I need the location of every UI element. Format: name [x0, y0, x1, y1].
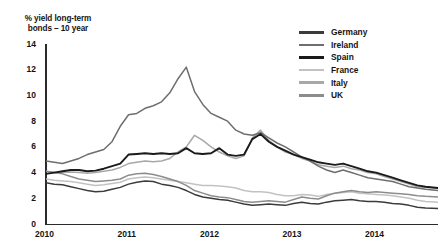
x-tick-label-0: 2010: [35, 229, 54, 239]
y-tick-label-0: 0: [14, 219, 36, 229]
legend-label: France: [331, 65, 358, 75]
legend-item-italy[interactable]: Italy: [299, 76, 367, 89]
legend: GermanyIrelandSpainFranceItalyUK: [299, 26, 367, 102]
legend-item-spain[interactable]: Spain: [299, 51, 367, 64]
line-ireland: [46, 67, 438, 190]
y-axis-title: % yield long-term bonds – 10 year: [12, 14, 104, 34]
legend-label: Germany: [331, 27, 367, 37]
y-tick-label-6: 12: [14, 64, 36, 74]
legend-swatch-germany-icon: [299, 31, 324, 34]
y-tick-label-1: 2: [14, 193, 36, 203]
x-tick-label-1: 2011: [118, 229, 136, 239]
legend-item-uk[interactable]: UK: [299, 89, 367, 102]
chart-root: % yield long-term bonds – 10 year 024681…: [0, 0, 447, 250]
legend-swatch-italy-icon: [299, 81, 324, 84]
legend-item-ireland[interactable]: Ireland: [299, 39, 367, 52]
y-tick-label-2: 4: [14, 167, 36, 177]
y-tick-label-5: 10: [14, 90, 36, 100]
legend-label: Italy: [331, 78, 348, 88]
legend-label: Spain: [331, 52, 354, 62]
plot-area: [46, 44, 438, 224]
y-tick-label-4: 8: [14, 116, 36, 126]
y-tick-label-3: 6: [14, 141, 36, 151]
legend-label: Ireland: [331, 40, 358, 50]
legend-swatch-uk-icon: [299, 94, 324, 97]
x-tick-label-2: 2012: [200, 229, 219, 239]
legend-item-germany[interactable]: Germany: [299, 26, 367, 39]
x-tick-label-3: 2013: [283, 229, 302, 239]
series-lines: [46, 44, 438, 224]
legend-swatch-ireland-icon: [299, 44, 324, 47]
y-tick-label-7: 14: [14, 39, 36, 49]
x-tick-label-4: 2014: [365, 229, 384, 239]
legend-item-france[interactable]: France: [299, 64, 367, 77]
line-uk: [46, 171, 438, 202]
legend-swatch-spain-icon: [299, 56, 324, 59]
legend-label: UK: [331, 90, 343, 100]
legend-swatch-france-icon: [299, 69, 324, 72]
